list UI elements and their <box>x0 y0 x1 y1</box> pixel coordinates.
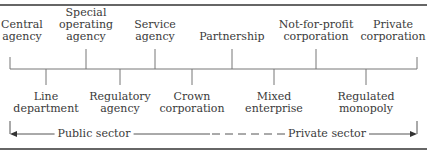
label-not-for-profit-corporation: Not-for-profit corporation <box>279 19 354 43</box>
label-crown-corporation: Crown corporation <box>159 91 224 115</box>
label-private-corporation: Private corporation <box>360 19 425 43</box>
label-line: corporation <box>159 103 224 115</box>
private-sector-label: Private sector <box>285 128 369 140</box>
label-line: enterprise <box>245 103 303 115</box>
label-regulated-monopoly: Regulated monopoly <box>338 91 395 115</box>
label-line: Partnership <box>199 31 264 43</box>
public-sector-label: Public sector <box>55 128 134 140</box>
label-regulatory-agency: Regulatory agency <box>89 91 151 115</box>
lower-ticks <box>46 69 366 85</box>
label-line: agency <box>89 103 151 115</box>
label-mixed-enterprise: Mixed enterprise <box>245 91 303 115</box>
label-line: agency <box>1 31 43 43</box>
label-central-agency: Central agency <box>1 19 43 43</box>
label-line: monopoly <box>338 103 395 115</box>
label-line: agency <box>59 31 113 43</box>
label-special-operating-agency: Special operating agency <box>59 7 113 43</box>
label-line: department <box>13 103 78 115</box>
public-private-continuum-diagram: Central agency Special operating agency … <box>0 0 427 153</box>
arrow-left-icon <box>10 131 17 137</box>
label-line: agency <box>134 31 176 43</box>
label-service-agency: Service agency <box>134 19 176 43</box>
label-line: corporation <box>360 31 425 43</box>
label-partnership: Partnership <box>199 31 264 43</box>
upper-ticks <box>10 49 417 69</box>
label-line-department: Line department <box>13 91 78 115</box>
arrow-right-icon <box>410 131 417 137</box>
label-line: corporation <box>279 31 354 43</box>
